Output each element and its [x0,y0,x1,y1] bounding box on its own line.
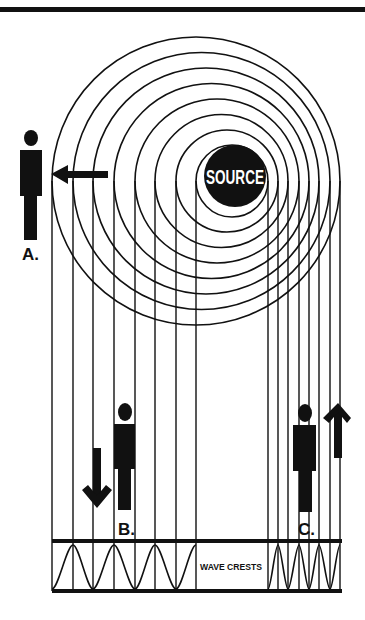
arrow-left-icon [51,165,108,184]
person-icon [20,130,42,240]
top-rule [0,7,365,12]
person-icon [114,403,135,510]
wave-crests-label: WAVE CRESTS [200,561,262,572]
observer-b-label: B. [118,520,135,539]
doppler-diagram: SOURCE A. B. [0,0,365,620]
observer-a-label: A. [22,245,39,264]
source-label: SOURCE [206,165,264,188]
observer-c-label: C. [298,520,315,539]
arrow-down-icon [82,448,112,508]
source: SOURCE [204,145,266,207]
projection-lines [52,181,340,591]
arrow-up-icon [323,403,351,458]
short-wavelength-wave [268,545,340,589]
person-icon [293,404,316,512]
observer-c: C. [293,403,351,539]
wave-ring [73,53,330,310]
observer-b: B. [82,403,135,539]
